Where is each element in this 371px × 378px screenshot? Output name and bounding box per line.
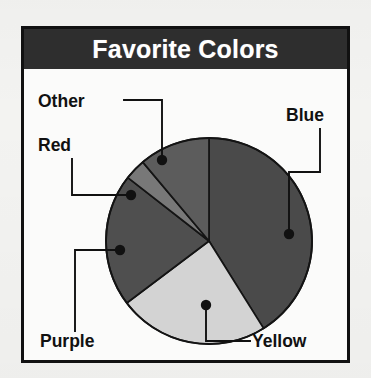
leader-dot-red bbox=[126, 190, 136, 200]
leader-dot-blue bbox=[284, 229, 294, 239]
leader-dot-purple bbox=[115, 245, 125, 255]
leader-dot-other bbox=[157, 155, 167, 165]
slice-label-purple: Purple bbox=[40, 331, 95, 351]
chart-title-banner: Favorite Colors bbox=[24, 29, 347, 69]
slice-label-red: Red bbox=[38, 135, 71, 155]
page-root: Favorite Colors BlueYellowPurpleRedOther bbox=[0, 0, 371, 378]
page-title: Favorite Colors bbox=[92, 37, 278, 62]
leader-line-other bbox=[124, 100, 162, 160]
slice-label-blue: Blue bbox=[286, 105, 324, 125]
slice-label-yellow: Yellow bbox=[252, 331, 307, 351]
pie-chart-plot-area: BlueYellowPurpleRedOther bbox=[24, 69, 347, 360]
slice-label-other: Other bbox=[38, 91, 85, 111]
leader-dot-yellow bbox=[201, 300, 211, 310]
pie-chart: BlueYellowPurpleRedOther bbox=[24, 69, 347, 360]
figure-frame: Favorite Colors BlueYellowPurpleRedOther bbox=[21, 26, 350, 363]
pie-slices-group bbox=[106, 138, 312, 344]
